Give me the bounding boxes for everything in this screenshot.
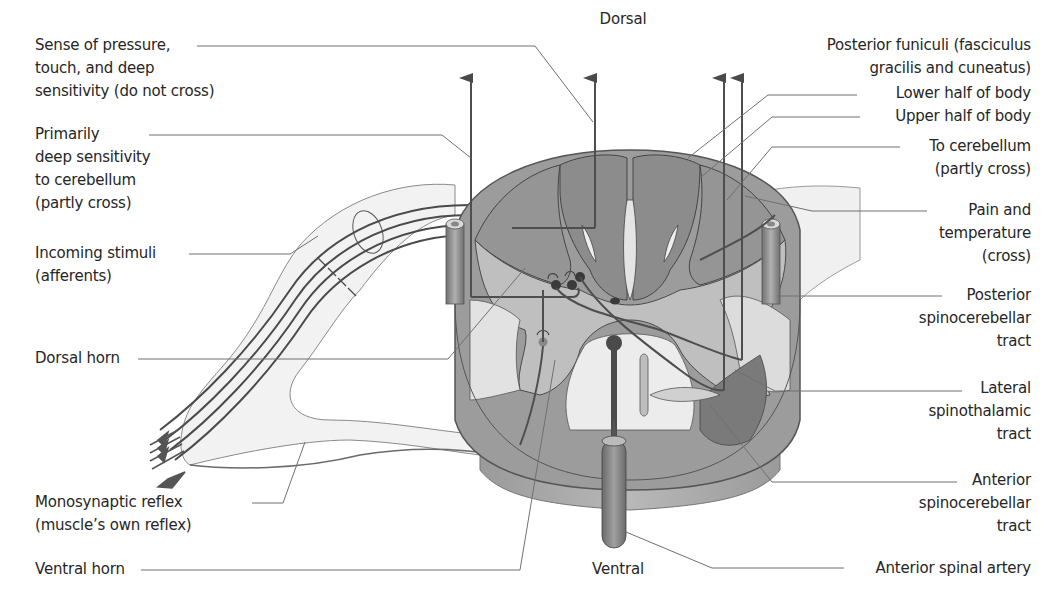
label-upper-half-body: Upper half of body [895,105,1031,128]
label-monosynaptic-reflex: Monosynaptic reflex (muscle’s own reflex… [35,491,192,537]
label-deep-sensitivity: Primarily deep sensitivity to cerebellum… [35,123,150,215]
label-ventral-horn: Ventral horn [35,558,125,581]
label-dorsal-horn: Dorsal horn [35,347,120,370]
label-to-cerebellum: To cerebellum (partly cross) [929,135,1031,181]
label-incoming-stimuli: Incoming stimuli (afferents) [35,242,156,288]
label-pain-temperature: Pain and temperature (cross) [939,199,1031,268]
label-posterior-funiculi: Posterior funiculi (fasciculus gracilis … [827,34,1031,80]
label-ventral: Ventral [583,558,653,581]
label-anterior-spinocerebellar: Anterior spinocerebellar tract [919,469,1031,538]
label-dorsal: Dorsal [588,8,658,31]
label-pressure-touch: Sense of pressure, touch, and deep sensi… [35,34,214,103]
label-lower-half-body: Lower half of body [896,82,1031,105]
label-lateral-spinothalamic: Lateral spinothalamic tract [928,377,1031,446]
label-posterior-spinocerebellar: Posterior spinocerebellar tract [919,284,1031,353]
label-anterior-spinal-artery: Anterior spinal artery [875,557,1031,580]
